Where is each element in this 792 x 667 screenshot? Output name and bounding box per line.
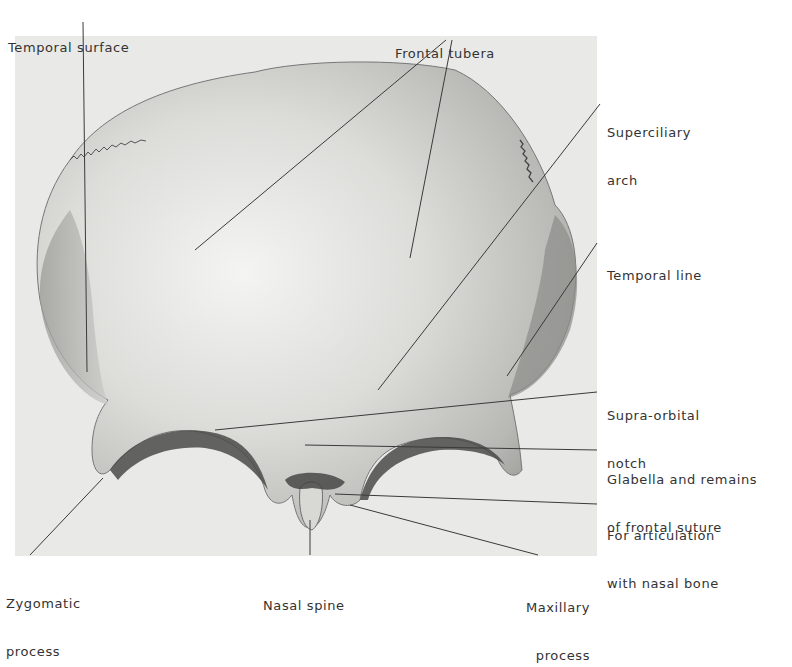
label-frontal-tubera: Frontal tubera (395, 14, 495, 78)
label-line: arch (607, 173, 691, 189)
label-line: Nasal spine (263, 598, 345, 614)
label-superciliary-arch: Superciliary arch (607, 93, 691, 205)
label-line: process (508, 648, 590, 664)
leader-nasal-articulation (335, 494, 597, 504)
label-nasal-spine: Nasal spine (263, 566, 345, 630)
label-line: For articulation (607, 528, 719, 544)
leader-maxillary-process (350, 505, 538, 555)
label-temporal-surface: Temporal surface (8, 8, 129, 72)
label-temporal-line: Temporal line (607, 236, 702, 300)
label-line: Temporal surface (8, 40, 129, 56)
label-line: Maxillary (508, 600, 590, 616)
label-zygomatic-process: Zygomatic process (6, 564, 81, 667)
label-line: Superciliary (607, 125, 691, 141)
label-line: process (6, 644, 81, 660)
label-line: Glabella and remains (607, 472, 757, 488)
label-line: Temporal line (607, 268, 702, 284)
label-line: Zygomatic (6, 596, 81, 612)
label-maxillary-process: Maxillary process (508, 568, 590, 667)
label-line: with nasal bone (607, 576, 719, 592)
label-nasal-articulation: For articulation with nasal bone (607, 496, 719, 608)
label-line: Supra-orbital (607, 408, 700, 424)
leader-zygomatic-process (30, 478, 103, 555)
label-line: Frontal tubera (395, 46, 495, 62)
